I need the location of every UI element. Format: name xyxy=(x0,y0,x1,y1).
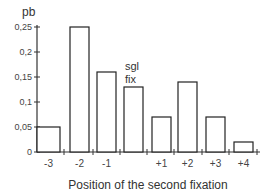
bar-minus2 xyxy=(70,27,89,152)
y-tick-label: 0,25 xyxy=(14,22,32,32)
bar-plus2 xyxy=(178,82,197,152)
y-tick-label: 0,2 xyxy=(19,47,32,57)
x-axis-title: Position of the second fixation xyxy=(68,178,227,192)
y-axis-title: pb xyxy=(22,5,36,19)
annotation-label: fix xyxy=(125,73,137,85)
x-tick-label: +2 xyxy=(182,158,194,169)
annotation-label: sgl xyxy=(125,60,139,72)
x-tick-label: -1 xyxy=(102,158,111,169)
bar-sglminusfix xyxy=(124,87,143,152)
bar-minus1 xyxy=(97,72,116,152)
y-tick-label: 0,15 xyxy=(14,72,32,82)
bar-plus3 xyxy=(206,117,225,152)
x-tick-label: -2 xyxy=(75,158,84,169)
x-tick-label: +3 xyxy=(210,158,222,169)
x-tick-label: -3 xyxy=(44,158,53,169)
annotations: sglfix xyxy=(125,60,139,85)
bar-plus4 xyxy=(234,142,253,152)
bar-chart: 00,050,10,150,20,25 -3-2-1+1+2+3+4 pb Po… xyxy=(0,0,264,195)
category-labels: -3-2-1+1+2+3+4 xyxy=(44,158,250,169)
y-tick-label: 0,1 xyxy=(19,97,32,107)
x-tick-label: +1 xyxy=(156,158,168,169)
y-tick-label: 0,05 xyxy=(14,122,32,132)
bar-plus1 xyxy=(152,117,171,152)
y-tick-label: 0 xyxy=(27,147,32,157)
x-tick-label: +4 xyxy=(238,158,250,169)
y-axis: 00,050,10,150,20,25 xyxy=(14,22,40,157)
bar-minus3 xyxy=(37,127,60,152)
bars xyxy=(37,27,253,152)
